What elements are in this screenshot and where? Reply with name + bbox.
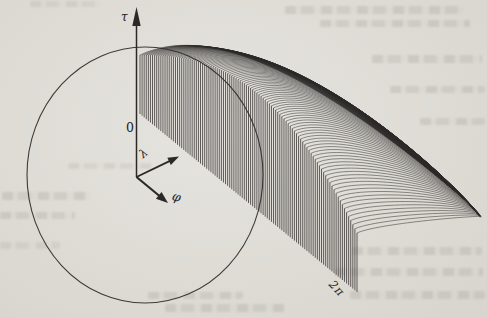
lambda-arrow-line bbox=[137, 161, 170, 177]
surface-profile-curves bbox=[140, 45, 481, 233]
phi-arrow-line bbox=[137, 177, 160, 196]
tau-axis-label: τ bbox=[121, 11, 128, 23]
origin-zero-label: 0 bbox=[126, 122, 134, 135]
lambda-arrow-arrowhead-icon bbox=[167, 157, 179, 165]
tau-axis-arrowhead-icon bbox=[132, 7, 140, 26]
figure-canvas bbox=[0, 0, 487, 318]
surface-plot bbox=[140, 45, 481, 292]
scanned-figure: τ 0 λ φ 2π bbox=[0, 0, 487, 318]
